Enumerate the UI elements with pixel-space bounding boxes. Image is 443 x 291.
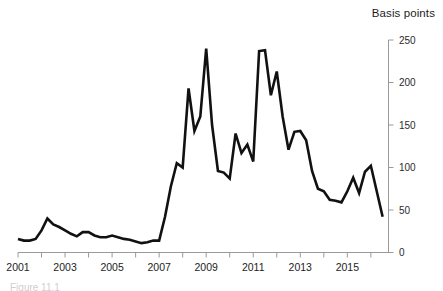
x-axis-ticks: 20012003200520072009201120132015 <box>6 253 371 274</box>
x-tick-label: 2005 <box>100 261 124 273</box>
data-series-group <box>18 49 383 244</box>
y-tick-label: 250 <box>399 35 416 46</box>
x-tick-label: 2015 <box>336 261 360 273</box>
x-tick-label: 2011 <box>242 261 265 273</box>
x-tick-label: 2009 <box>195 261 219 273</box>
x-tick-label: 2007 <box>147 261 171 273</box>
y-axis-ticks: 050100150200250 <box>389 35 417 259</box>
y-tick-label: 100 <box>399 162 416 173</box>
figure-caption: Figure 11.1 <box>10 282 60 291</box>
y-tick-label: 200 <box>399 77 416 88</box>
x-tick-label: 2003 <box>53 261 77 273</box>
x-tick-label: 2013 <box>289 261 313 273</box>
x-tick-label: 2001 <box>6 261 30 273</box>
y-tick-label: 0 <box>399 247 405 258</box>
y-tick-label: 150 <box>399 120 416 131</box>
y-tick-label: 50 <box>399 205 411 216</box>
data-line-spread <box>18 49 383 244</box>
